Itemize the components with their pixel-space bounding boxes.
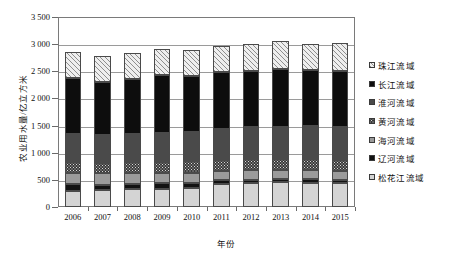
legend-item-huaihe[interactable]: 淮河流域 (369, 93, 449, 112)
bar-segment-huaihe-2008 (124, 134, 141, 162)
bar-segment-zhujiang-2013 (272, 41, 289, 70)
bar-segment-liaohe-2009 (154, 183, 171, 188)
bar-segment-liaohe-2014 (302, 179, 319, 182)
bar-segment-zhujiang-2011 (213, 46, 230, 73)
legend-swatch-liaohe-icon (369, 155, 375, 161)
bar-segment-liaohe-2007 (94, 185, 111, 190)
legend-label: 淮河流域 (378, 96, 415, 108)
bar-group-2012 (243, 17, 260, 207)
legend-swatch-huaihe-icon (369, 99, 375, 105)
legend-item-changjiang[interactable]: 长江流域 (369, 75, 449, 94)
y-tick-label: 2 000 (4, 94, 50, 102)
bar-segment-huanghe-2013 (272, 159, 289, 170)
agricultural-water-use-stacked-bar-chart: 农业用水量/亿立方米 年份 珠江流域长江流域淮河流域黄河流域海河流域辽河流域松花… (0, 0, 451, 266)
bar-segment-changjiang-2007 (94, 82, 111, 135)
bar-group-2008 (124, 17, 141, 207)
x-tick-mark (266, 207, 267, 211)
x-tick-mark (207, 207, 208, 211)
bar-group-2006 (65, 17, 82, 207)
bar-segment-changjiang-2013 (272, 69, 289, 127)
legend-swatch-songhua-icon (369, 174, 375, 180)
bar-segment-songhua-2015 (332, 183, 349, 207)
bar-group-2010 (183, 17, 200, 207)
bar-segment-songhua-2008 (124, 189, 141, 207)
bar-segment-haihe-2014 (302, 170, 319, 180)
y-tick-mark (52, 44, 58, 45)
bar-segment-huaihe-2011 (213, 129, 230, 160)
bar-group-2013 (272, 17, 289, 207)
bar-segment-zhujiang-2010 (183, 50, 200, 77)
bar-segment-songhua-2007 (94, 190, 111, 207)
legend-item-zhujiang[interactable]: 珠江流域 (369, 56, 449, 75)
bar-segment-songhua-2006 (65, 191, 82, 207)
legend-label: 海河流域 (378, 134, 415, 146)
bar-segment-songhua-2012 (243, 183, 260, 207)
bar-segment-changjiang-2009 (154, 75, 171, 132)
legend-label: 珠江流域 (378, 59, 415, 71)
legend-item-liaohe[interactable]: 辽河流域 (369, 149, 449, 168)
bar-segment-songhua-2009 (154, 189, 171, 207)
bar-segment-haihe-2012 (243, 170, 260, 180)
x-tick-mark (147, 207, 148, 211)
bar-segment-haihe-2008 (124, 173, 141, 184)
x-tick-mark (177, 207, 178, 211)
y-tick-label: 3 500 (4, 13, 50, 21)
bar-segment-liaohe-2013 (272, 179, 289, 182)
bar-segment-haihe-2009 (154, 173, 171, 184)
y-tick-label: 1 500 (4, 122, 50, 130)
bar-segment-liaohe-2011 (213, 180, 230, 184)
x-tick-mark (117, 207, 118, 211)
bar-segment-zhujiang-2008 (124, 53, 141, 80)
bar-segment-changjiang-2006 (65, 78, 82, 134)
bar-segment-huaihe-2015 (332, 127, 349, 160)
y-tick-mark (52, 153, 58, 154)
legend-swatch-zhujiang-icon (369, 62, 375, 68)
bar-segment-huanghe-2009 (154, 162, 171, 173)
bar-segment-changjiang-2010 (183, 76, 200, 131)
legend-swatch-changjiang-icon (369, 81, 375, 87)
bar-segment-liaohe-2008 (124, 184, 141, 190)
bar-segment-zhujiang-2015 (332, 43, 349, 70)
y-axis-title: 农业用水量/亿立方米 (16, 38, 28, 198)
y-tick-mark (52, 126, 58, 127)
bar-segment-zhujiang-2014 (302, 44, 319, 71)
x-tick-mark (88, 207, 89, 211)
bar-segment-haihe-2015 (332, 171, 349, 180)
bar-segment-songhua-2011 (213, 184, 230, 207)
bar-segment-huanghe-2008 (124, 162, 141, 173)
bar-group-2014 (302, 17, 319, 207)
y-tick-mark (52, 180, 58, 181)
legend-item-songhua[interactable]: 松花江流域 (369, 168, 449, 187)
legend-item-huanghe[interactable]: 黄河流域 (369, 112, 449, 131)
legend: 珠江流域长江流域淮河流域黄河流域海河流域辽河流域松花江流域 (369, 56, 449, 186)
y-tick-label: 1 000 (4, 149, 50, 157)
bar-segment-haihe-2006 (65, 173, 82, 185)
bar-segment-liaohe-2012 (243, 180, 260, 184)
bar-segment-huaihe-2007 (94, 135, 111, 163)
bars-layer (58, 17, 355, 207)
x-tick-mark (355, 207, 356, 211)
bar-segment-liaohe-2010 (183, 183, 200, 188)
bar-segment-zhujiang-2006 (65, 52, 82, 79)
bar-group-2009 (154, 17, 171, 207)
bar-segment-haihe-2007 (94, 173, 111, 184)
bar-segment-changjiang-2015 (332, 71, 349, 127)
legend-item-haihe[interactable]: 海河流域 (369, 130, 449, 149)
x-tick-label-2015: 2015 (320, 212, 360, 222)
bar-group-2007 (94, 17, 111, 207)
bar-segment-songhua-2013 (272, 182, 289, 207)
bar-segment-huanghe-2014 (302, 159, 319, 170)
bar-segment-huanghe-2011 (213, 160, 230, 171)
bar-segment-liaohe-2015 (332, 180, 349, 183)
bar-segment-changjiang-2014 (302, 70, 319, 126)
bar-segment-zhujiang-2012 (243, 44, 260, 71)
bar-segment-huaihe-2010 (183, 132, 200, 162)
bar-segment-changjiang-2011 (213, 72, 230, 129)
y-tick-label: 3 000 (4, 40, 50, 48)
y-tick-mark (52, 17, 58, 18)
y-tick-mark (52, 71, 58, 72)
bar-segment-huanghe-2006 (65, 162, 82, 173)
bar-group-2015 (332, 17, 349, 207)
x-tick-mark (325, 207, 326, 211)
bar-segment-songhua-2014 (302, 183, 319, 207)
